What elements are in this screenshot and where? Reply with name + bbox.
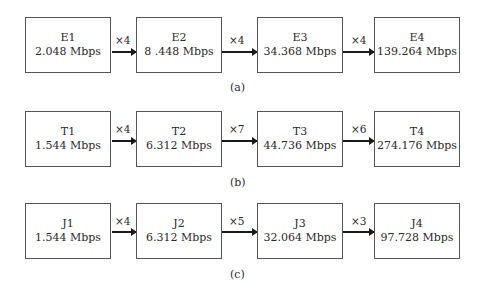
node-e4: E4 139.264 Mbps — [374, 17, 460, 73]
node-j3: J3 32.064 Mbps — [257, 203, 343, 259]
arrow-icon — [343, 140, 374, 142]
caption-c: (c) — [230, 268, 245, 281]
node-rate: 1.544 Mbps — [35, 231, 101, 245]
node-label: E3 — [292, 31, 307, 45]
arrow-icon — [112, 140, 136, 142]
node-label: T2 — [172, 125, 186, 139]
multiplier-label: ×7 — [229, 123, 244, 135]
arrow-icon — [343, 231, 374, 233]
node-rate: 97.728 Mbps — [381, 231, 454, 245]
node-label: T4 — [410, 125, 424, 139]
node-t3: T3 44.736 Mbps — [257, 111, 343, 167]
arrow-icon — [222, 51, 257, 53]
node-rate: 2.048 Mbps — [35, 45, 101, 59]
node-t1: T1 1.544 Mbps — [25, 111, 111, 167]
node-label: J1 — [62, 217, 73, 231]
multiplier-label: ×4 — [115, 123, 130, 135]
node-rate: 6.312 Mbps — [146, 139, 212, 153]
multiplier-label: ×4 — [351, 34, 366, 46]
node-label: J2 — [173, 217, 184, 231]
multiplier-label: ×4 — [229, 34, 244, 46]
node-e1: E1 2.048 Mbps — [25, 17, 111, 73]
node-rate: 32.064 Mbps — [264, 231, 337, 245]
node-label: T3 — [293, 125, 307, 139]
multiplier-label: ×3 — [351, 215, 366, 227]
node-j2: J2 6.312 Mbps — [136, 203, 222, 259]
node-label: J4 — [411, 217, 422, 231]
arrow-icon — [112, 231, 136, 233]
node-j4: J4 97.728 Mbps — [374, 203, 460, 259]
node-e3: E3 34.368 Mbps — [257, 17, 343, 73]
node-label: E4 — [409, 31, 424, 45]
node-rate: 1.544 Mbps — [35, 139, 101, 153]
node-rate: 6.312 Mbps — [146, 231, 212, 245]
node-label: E2 — [171, 31, 186, 45]
caption-b: (b) — [230, 176, 246, 189]
arrow-icon — [222, 231, 257, 233]
arrow-icon — [343, 51, 374, 53]
multiplier-label: ×5 — [229, 215, 244, 227]
node-rate: 34.368 Mbps — [264, 45, 337, 59]
node-t4: T4 274.176 Mbps — [374, 111, 460, 167]
node-label: T1 — [61, 125, 75, 139]
node-j1: J1 1.544 Mbps — [25, 203, 111, 259]
arrow-icon — [222, 140, 257, 142]
node-rate: 8 .448 Mbps — [144, 45, 213, 59]
caption-a: (a) — [230, 81, 245, 94]
node-rate: 44.736 Mbps — [264, 139, 337, 153]
node-label: E1 — [60, 31, 75, 45]
node-e2: E2 8 .448 Mbps — [136, 17, 222, 73]
multiplier-label: ×6 — [351, 123, 366, 135]
multiplier-label: ×4 — [115, 34, 130, 46]
multiplier-label: ×4 — [115, 215, 130, 227]
arrow-icon — [112, 51, 136, 53]
node-t2: T2 6.312 Mbps — [136, 111, 222, 167]
node-rate: 139.264 Mbps — [377, 45, 457, 59]
node-rate: 274.176 Mbps — [377, 139, 457, 153]
node-label: J3 — [294, 217, 305, 231]
